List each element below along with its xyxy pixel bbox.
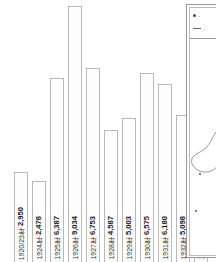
bar-labels: 4,587 1928年: [105, 216, 117, 262]
bar-labels: 6,387 1925年: [51, 216, 63, 262]
bar-value-label: 6,387: [53, 216, 61, 235]
bar-labels: 2,950 1920/23年: [15, 207, 27, 262]
bar-value-label: 9,034: [71, 216, 79, 235]
bar-column[interactable]: 6,387 1925年: [50, 78, 64, 262]
side-panel: · ·: [186, 4, 216, 258]
bar-chart: 2,950 1920/23年 2,478 1924年 6: [0, 0, 182, 262]
inset-map: [190, 52, 217, 255]
bar-column[interactable]: 4,587 1928年: [104, 130, 118, 262]
bar-value-label: 2,478: [35, 216, 43, 235]
legend-item: ·: [193, 25, 214, 33]
bar-labels: 6,753 1927年: [87, 216, 99, 262]
bar[interactable]: 2,478 1924年: [32, 181, 46, 262]
bar[interactable]: 4,587 1928年: [104, 130, 118, 262]
bar-category-label: 1927年: [90, 237, 97, 260]
bar[interactable]: 5,003 1929年: [122, 118, 136, 262]
legend-item-label: ·: [199, 13, 201, 19]
map-point-marker: [195, 210, 198, 213]
bar-column[interactable]: 2,478 1924年: [32, 181, 46, 262]
bar[interactable]: 6,387 1925年: [50, 78, 64, 262]
legend-item-label: ·: [204, 26, 206, 32]
bar-value-label: 6,753: [89, 216, 97, 235]
plot-area: 2,950 1920/23年 2,478 1924年 6: [0, 0, 182, 262]
bar[interactable]: 6,575 1930年: [140, 73, 154, 262]
bar-category-label: 1928年: [108, 237, 115, 260]
bar-labels: 6,180 1931年: [159, 216, 171, 262]
legend-item: ·: [193, 12, 214, 20]
bar[interactable]: 9,034 1926年: [68, 6, 82, 262]
bar-category-label: 1925年: [54, 237, 61, 260]
bar-category-label: 1929年: [126, 237, 133, 260]
bar-labels: 6,575 1930年: [141, 216, 153, 262]
bar-labels: 2,478 1924年: [33, 216, 45, 262]
bar-column[interactable]: 6,180 1931年: [158, 84, 172, 262]
bar-column[interactable]: 6,753 1927年: [86, 68, 100, 262]
side-panel-inner: · ·: [189, 7, 217, 256]
bar-value-label: 4,587: [107, 216, 115, 235]
map-point-marker: [199, 173, 202, 176]
bar-column[interactable]: 9,034 1926年: [68, 6, 82, 262]
bar-value-label: 5,003: [125, 216, 133, 235]
bar[interactable]: 6,180 1931年: [158, 84, 172, 262]
bar-column[interactable]: 6,575 1930年: [140, 73, 154, 262]
map-outline-icon: [189, 130, 217, 200]
bar[interactable]: 6,753 1927年: [86, 68, 100, 262]
bar-value-label: 6,575: [143, 216, 151, 235]
bar-category-label: 1930年: [144, 237, 151, 260]
bar-column[interactable]: 2,950 1920/23年: [14, 172, 28, 262]
bar-category-label: 1926年: [72, 237, 79, 260]
line-marker-icon: [193, 28, 201, 29]
bar-value-label: 2,950: [17, 207, 25, 226]
screenshot-root: 2,950 1920/23年 2,478 1924年 6: [0, 0, 216, 262]
bar-category-label: 1931年: [162, 237, 169, 260]
bar-labels: 5,003 1929年: [123, 216, 135, 262]
bar-column[interactable]: 5,003 1929年: [122, 118, 136, 262]
bar-labels: 9,034 1926年: [69, 216, 81, 262]
legend: · ·: [190, 8, 217, 39]
bar-category-label: 1920/23年: [18, 228, 25, 260]
bar[interactable]: 2,950 1920/23年: [14, 172, 28, 262]
bar-category-label: 1924年: [36, 237, 43, 260]
point-marker-icon: [193, 14, 196, 17]
bar-value-label: 6,180: [161, 216, 169, 235]
